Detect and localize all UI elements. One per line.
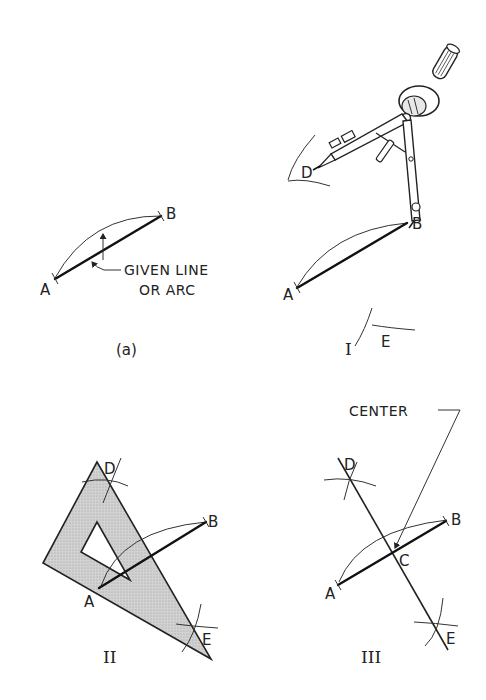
label-point-a: A — [325, 585, 336, 603]
label-point-d: D — [104, 460, 116, 478]
given-line — [338, 521, 446, 585]
label-point-d: D — [344, 456, 356, 474]
arc-e-horizontal — [414, 622, 458, 626]
annotation-center: CENTER — [349, 403, 408, 419]
panel-I: A B D E I — [283, 42, 461, 359]
arc-d-horizontal — [324, 479, 376, 486]
construction-figure: A B GIVEN LINE OR ARC (a) — [0, 0, 486, 700]
bisector-line — [338, 458, 448, 650]
caption-II: II — [103, 647, 116, 667]
label-point-e: E — [446, 630, 455, 648]
label-point-a: A — [283, 286, 294, 304]
label-point-b: B — [412, 215, 422, 233]
label-point-a: A — [40, 281, 51, 299]
label-point-b: B — [208, 513, 218, 531]
annotation-given-line: GIVEN LINE — [124, 262, 209, 278]
given-line — [297, 223, 407, 288]
arc-e-horizontal — [372, 325, 415, 330]
triangle-icon — [43, 462, 211, 659]
compass-icon — [313, 42, 461, 228]
label-point-e: E — [381, 333, 390, 351]
arc-e-vertical — [355, 308, 372, 346]
leader-arrow-line — [92, 262, 121, 270]
label-point-d: D — [301, 164, 313, 182]
panel-a: A B GIVEN LINE OR ARC (a) — [40, 205, 209, 359]
label-point-e: E — [202, 631, 211, 649]
annotation-or-arc: OR ARC — [139, 282, 196, 298]
caption-I: I — [345, 339, 352, 359]
label-point-c: C — [399, 552, 409, 570]
panel-III: CENTER A B C D E III — [324, 403, 461, 667]
panel-II: A B D E II — [43, 458, 218, 667]
arc-e-vertical — [425, 598, 443, 646]
label-point-a: A — [84, 593, 95, 611]
caption-a: (a) — [116, 341, 137, 359]
label-point-b: B — [166, 205, 176, 223]
caption-III: III — [361, 647, 381, 667]
label-point-b: B — [451, 511, 461, 529]
